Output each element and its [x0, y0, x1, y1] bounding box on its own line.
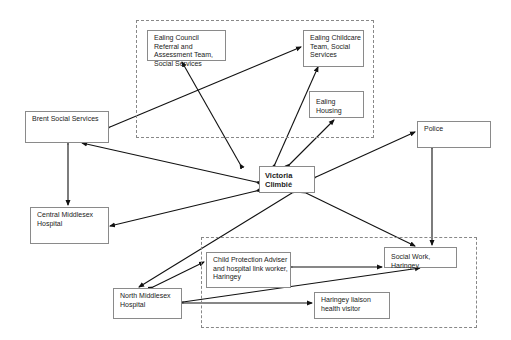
- node-ealing-childcare: Ealing Childcare Team, Social Services: [303, 30, 364, 67]
- node-central-middlesex: Central Middlesex Hospital: [30, 207, 109, 244]
- node-child-protection: Child Protection Adviser and hospital li…: [206, 252, 291, 288]
- node-north-middlesex: North Middlesex Hospital: [113, 288, 182, 319]
- edge-victoria-brent: [82, 143, 256, 182]
- node-police: Police: [417, 121, 491, 148]
- node-ealing-housing: Ealing Housing: [309, 91, 364, 118]
- node-social-work: Social Work, Haringey: [384, 247, 457, 268]
- edge-north-middlesex-child-protection: [153, 262, 204, 287]
- edge-victoria-central-middlesex: [110, 191, 256, 226]
- node-victoria: Victoria Climbié: [259, 166, 315, 193]
- node-ealing-referral: Ealing Council Referral and Assessment T…: [147, 30, 226, 61]
- node-brent: Brent Social Services: [25, 111, 109, 143]
- node-liaison-visitor: Haringey liaison health visitor: [314, 292, 390, 319]
- edge-victoria-police: [316, 132, 415, 177]
